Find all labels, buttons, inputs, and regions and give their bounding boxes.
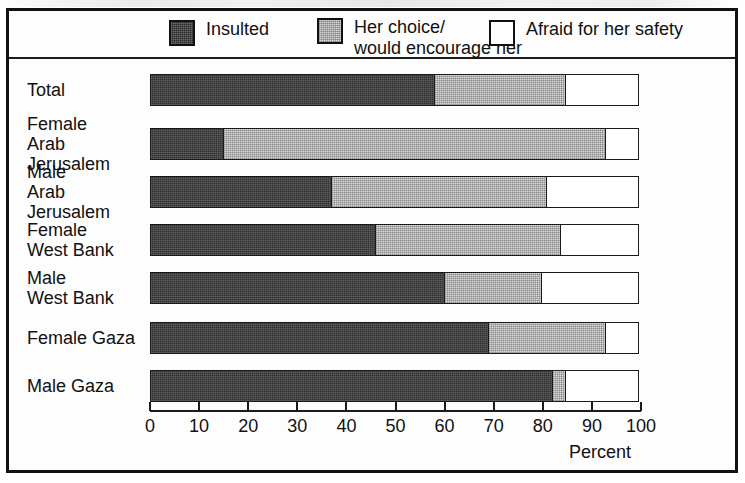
stacked-bar [150,128,641,160]
bar-segment [552,370,567,402]
scan-artifact-top [0,0,745,7]
chart-legend: Insulted Her choice/ would encourage her… [9,11,735,59]
x-axis-tick-label: 10 [189,416,209,437]
chart-figure-frame: Insulted Her choice/ would encourage her… [6,8,738,473]
bar-segment [565,74,639,106]
bar-row: Male Gaza [9,363,735,409]
x-axis: 0102030405060708090100 [150,410,641,411]
bar-segment [331,176,547,208]
bar-row-label: Male Gaza [27,376,147,396]
stacked-bar [150,224,641,256]
x-axis-title: Percent [569,442,631,463]
x-axis-tick-label: 50 [385,416,405,437]
bar-segment [223,128,606,160]
bar-row: Female West Bank [9,217,735,263]
bar-segment [150,322,489,354]
x-axis-tick [542,402,544,411]
legend-label-insulted: Insulted [206,19,269,40]
stacked-bar [150,370,641,402]
legend-swatch-afraid [489,20,515,46]
bar-segment [444,272,542,304]
x-axis-tick [640,402,642,411]
bar-row: Female Gaza [9,315,735,361]
x-axis-tick [493,402,495,411]
stacked-bar [150,272,641,304]
bar-row-label: Total [27,80,147,100]
bar-segment [375,224,562,256]
bar-row-label: Female West Bank [27,220,147,260]
x-axis-tick [247,402,249,411]
x-axis-tick-label: 80 [533,416,553,437]
legend-item-insulted: Insulted [169,19,269,46]
x-axis-tick [345,402,347,411]
bar-segment [434,74,567,106]
x-axis-tick [198,402,200,411]
x-axis-tick-label: 60 [435,416,455,437]
bar-segment [150,128,224,160]
bar-segment [605,128,639,160]
legend-label-afraid: Afraid for her safety [526,19,683,40]
bar-segment [541,272,639,304]
bar-segment [565,370,639,402]
bar-row: Female Arab Jerusalem [9,121,735,167]
x-axis-tick-label: 70 [484,416,504,437]
bar-row: Male Arab Jerusalem [9,169,735,215]
legend-swatch-insulted [169,20,195,46]
stacked-bar [150,176,641,208]
bar-segment [150,74,435,106]
bar-row: Total [9,67,735,113]
legend-item-afraid: Afraid for her safety [489,19,683,46]
bar-segment [150,370,553,402]
x-axis-tick [395,402,397,411]
x-axis-tick-label: 30 [287,416,307,437]
bar-segment [150,224,376,256]
x-axis-tick [444,402,446,411]
bar-segment [560,224,639,256]
chart-plot-area: TotalFemale Arab JerusalemMale Arab Jeru… [9,59,735,470]
bar-segment [605,322,639,354]
x-axis-tick-label: 100 [626,416,656,437]
bar-row-label: Male West Bank [27,268,147,308]
legend-swatch-her-choice [317,18,343,44]
bar-row-label: Female Gaza [27,328,147,348]
x-axis-tick-label: 0 [145,416,155,437]
x-axis-tick-label: 40 [336,416,356,437]
bar-segment [150,272,445,304]
bar-row: Male West Bank [9,265,735,311]
stacked-bar [150,74,641,106]
bar-segment [150,176,332,208]
stacked-bar [150,322,641,354]
x-axis-tick-label: 20 [238,416,258,437]
bar-segment [546,176,639,208]
x-axis-tick-label: 90 [582,416,602,437]
x-axis-tick [296,402,298,411]
x-axis-tick [149,402,151,411]
bar-segment [488,322,606,354]
x-axis-tick [591,402,593,411]
bar-row-label: Male Arab Jerusalem [27,162,147,222]
